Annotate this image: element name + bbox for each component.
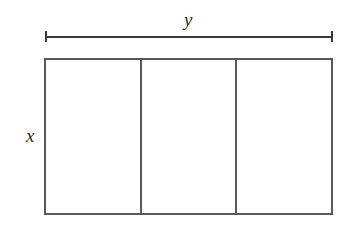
- partition-cell-2: [140, 60, 236, 213]
- width-dimension-right-tick: [331, 31, 333, 42]
- width-label-y: y: [184, 10, 192, 29]
- width-dimension-line: [45, 36, 332, 38]
- partition-cell-3: [235, 60, 331, 213]
- width-dimension-left-tick: [45, 31, 47, 42]
- outer-rectangle: [44, 58, 333, 215]
- rectangle-partition-diagram: y x: [0, 0, 349, 231]
- partition-cell-1: [46, 60, 140, 213]
- height-label-x: x: [26, 126, 34, 145]
